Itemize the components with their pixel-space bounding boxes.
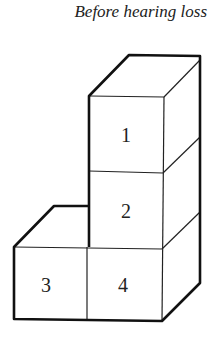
block-4-label: 4 — [118, 274, 128, 296]
block-diagram: 1 2 3 4 — [0, 0, 215, 338]
block-2-label: 2 — [121, 200, 131, 222]
block-3-label: 3 — [41, 274, 51, 296]
block-1-label: 1 — [121, 124, 131, 146]
